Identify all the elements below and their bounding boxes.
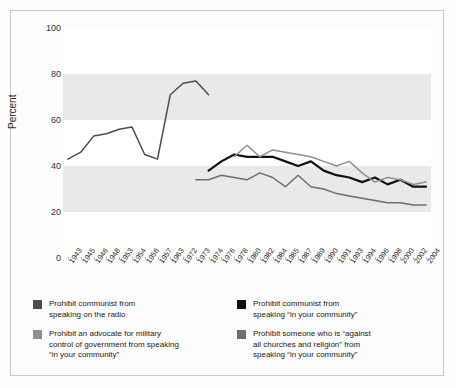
y-tick-0: 0 — [56, 253, 61, 263]
legend-swatch-icon — [33, 300, 42, 309]
plot-region: 100806040200 Percent 1943194519461948195… — [11, 11, 445, 261]
legend-label-line: all churches and religion” from — [253, 340, 433, 351]
chart-frame: 100806040200 Percent 1943194519461948195… — [10, 10, 444, 376]
legend-label-line: Prohibit an advocate for military — [49, 329, 229, 340]
legend-label-line: Prohibit communist from — [49, 299, 229, 310]
series-lines — [63, 28, 431, 258]
legend-label-line: control of government from speaking — [49, 340, 229, 351]
legend-column-right: Prohibit communist fromspeaking “in your… — [237, 299, 433, 370]
y-tick-80: 80 — [51, 69, 61, 79]
legend-label-line: Prohibit communist from — [253, 299, 433, 310]
y-tick-60: 60 — [51, 115, 61, 125]
legend-label-line: “in your community” — [49, 350, 229, 361]
y-tick-100: 100 — [46, 23, 61, 33]
plot-area — [63, 28, 431, 258]
series-line-2 — [234, 145, 426, 184]
legend-item-0[interactable]: Prohibit communist fromspeaking on the r… — [33, 299, 229, 320]
y-tick-20: 20 — [51, 207, 61, 217]
legend-item-3[interactable]: Prohibit someone who is “againstall chur… — [237, 329, 433, 361]
legend-item-label: Prohibit someone who is “againstall chur… — [253, 329, 433, 361]
series-line-0 — [68, 81, 209, 159]
y-tick-40: 40 — [51, 161, 61, 171]
legend-column-left: Prohibit communist fromspeaking on the r… — [33, 299, 229, 370]
legend-swatch-icon — [237, 330, 246, 339]
legend-label-line: speaking “in your community” — [253, 350, 433, 361]
y-axis-tick-labels: 100806040200 — [27, 28, 61, 258]
chart-legend: Prohibit communist fromspeaking on the r… — [33, 299, 433, 379]
legend-item-label: Prohibit communist fromspeaking “in your… — [253, 299, 433, 320]
y-axis-title: Percent — [7, 95, 18, 129]
legend-item-2[interactable]: Prohibit an advocate for militarycontrol… — [33, 329, 229, 361]
legend-item-label: Prohibit communist fromspeaking on the r… — [49, 299, 229, 320]
legend-label-line: speaking “in your community” — [253, 310, 433, 321]
legend-label-line: Prohibit someone who is “against — [253, 329, 433, 340]
legend-swatch-icon — [237, 300, 246, 309]
legend-item-1[interactable]: Prohibit communist fromspeaking “in your… — [237, 299, 433, 320]
chart-screenshot: 100806040200 Percent 1943194519461948195… — [0, 0, 456, 388]
legend-swatch-icon — [33, 330, 42, 339]
legend-label-line: speaking on the radio — [49, 310, 229, 321]
legend-item-label: Prohibit an advocate for militarycontrol… — [49, 329, 229, 361]
